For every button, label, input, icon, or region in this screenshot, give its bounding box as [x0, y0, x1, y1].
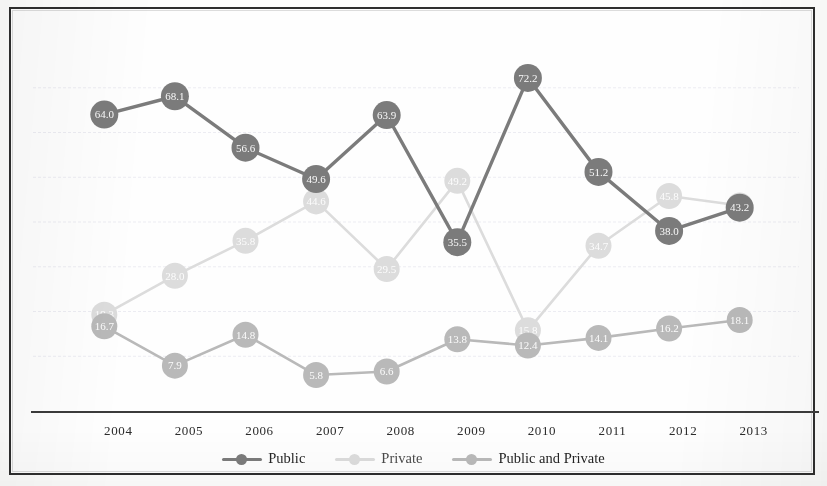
legend-label: Private: [381, 450, 422, 467]
data-point-label: 14.1: [589, 332, 608, 344]
x-tick-label-2011: 2011: [599, 423, 627, 439]
legend-swatch-icon: [222, 453, 262, 465]
data-point-label: 12.4: [518, 339, 538, 351]
page-border-frame: 19.328.035.844.629.549.215.834.745.843.7…: [9, 7, 815, 475]
legend-label: Public and Private: [498, 450, 604, 467]
data-point-label: 18.1: [730, 314, 749, 326]
data-point-label: 43.2: [730, 201, 749, 213]
legend-swatch-icon: [452, 453, 492, 465]
chart-legend: PublicPrivatePublic and Private: [0, 450, 827, 467]
series-private: 19.328.035.844.629.549.215.834.745.843.7: [91, 168, 752, 343]
legend-swatch-icon: [335, 453, 375, 465]
data-point-label: 29.5: [377, 263, 397, 275]
x-tick-label-2008: 2008: [386, 423, 414, 439]
x-tick-label-2010: 2010: [528, 423, 556, 439]
data-point-label: 68.1: [165, 90, 184, 102]
series-line: [104, 78, 739, 242]
x-tick-label-2013: 2013: [739, 423, 767, 439]
legend-dot: [349, 454, 360, 465]
legend-label: Public: [268, 450, 305, 467]
x-axis-tick-labels: 2004200520062007200820092010201120122013: [25, 423, 825, 449]
x-tick-label-2012: 2012: [669, 423, 697, 439]
data-point-label: 49.2: [448, 175, 467, 187]
data-point-label: 7.9: [168, 359, 182, 371]
legend-item-public-and-private[interactable]: Public and Private: [452, 450, 604, 467]
data-point-label: 72.2: [518, 72, 537, 84]
x-tick-label-2005: 2005: [175, 423, 203, 439]
line-chart-svg: 19.328.035.844.629.549.215.834.745.843.7…: [25, 23, 805, 409]
legend-dot: [236, 454, 247, 465]
data-point-label: 14.8: [236, 329, 256, 341]
x-tick-label-2006: 2006: [245, 423, 273, 439]
data-point-label: 45.8: [659, 190, 679, 202]
series-line: [104, 320, 739, 375]
chart-page: 19.328.035.844.629.549.215.834.745.843.7…: [0, 0, 827, 486]
data-point-label: 6.6: [380, 365, 394, 377]
x-axis-line: [31, 411, 819, 413]
legend-dot: [466, 454, 477, 465]
data-point-label: 13.8: [448, 333, 468, 345]
legend-item-public[interactable]: Public: [222, 450, 305, 467]
data-point-label: 64.0: [95, 108, 115, 120]
data-point-label: 28.0: [165, 270, 185, 282]
data-point-label: 38.0: [659, 225, 679, 237]
data-point-label: 35.5: [448, 236, 468, 248]
data-point-label: 16.7: [95, 320, 115, 332]
legend-item-private[interactable]: Private: [335, 450, 422, 467]
data-point-label: 35.8: [236, 235, 256, 247]
x-tick-label-2009: 2009: [457, 423, 485, 439]
data-point-label: 34.7: [589, 240, 609, 252]
x-tick-label-2007: 2007: [316, 423, 344, 439]
data-point-label: 16.2: [659, 322, 678, 334]
series-line: [104, 181, 739, 330]
data-point-label: 56.6: [236, 142, 256, 154]
data-point-label: 49.6: [306, 173, 326, 185]
data-point-label: 63.9: [377, 109, 397, 121]
series-public-and-private: 16.77.914.85.86.613.812.414.116.218.1: [91, 307, 752, 388]
plot-area: 19.328.035.844.629.549.215.834.745.843.7…: [25, 23, 805, 409]
data-point-label: 51.2: [589, 166, 608, 178]
x-tick-label-2004: 2004: [104, 423, 132, 439]
data-point-label: 44.6: [306, 195, 326, 207]
data-point-label: 5.8: [309, 369, 323, 381]
series-public: 64.068.156.649.663.935.572.251.238.043.2: [90, 64, 753, 256]
